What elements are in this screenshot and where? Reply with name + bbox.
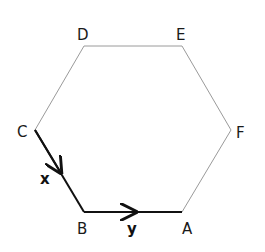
vertex-label-c: C [17,123,27,141]
vertex-label-d: D [77,26,89,44]
vector-label-x: x [40,170,50,188]
vertex-label-f: F [236,124,245,142]
vector-label-y: y [127,220,137,238]
hexagon-diagram: D E F C B A x y [0,0,265,252]
vertex-label-a: A [182,220,193,238]
vertex-label-b: B [77,220,87,238]
hexagon-edges [35,46,231,212]
vertex-label-e: E [176,26,185,44]
vector-x-arrow [35,130,61,173]
